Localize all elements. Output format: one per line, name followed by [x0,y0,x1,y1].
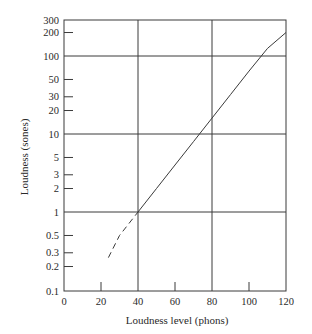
y-tick-label: 3 [54,169,59,180]
dashed-extrapolated-line [108,212,138,258]
y-tick-labels: 0.10.20.30.5123510203050100200300 [43,15,59,297]
y-tick-label: 1 [54,207,59,218]
y-tick-label: 20 [49,105,60,116]
y-tick-label: 2 [54,183,59,194]
loudness-chart: 0.10.20.30.5123510203050100200300 020406… [0,0,312,334]
x-tick-label: 60 [170,296,181,307]
y-tick-label: 10 [49,129,60,140]
y-tick-label: 100 [43,51,59,62]
y-tick-label: 50 [49,74,60,85]
gridlines [64,20,286,291]
plot-frame [64,20,286,291]
x-axis-label: Loudness level (phons) [126,314,229,327]
y-tick-label: 300 [43,15,59,26]
y-tick-label: 0.5 [46,230,59,241]
x-tick-label: 20 [96,296,107,307]
x-tick-label: 100 [241,296,257,307]
y-tick-label: 0.3 [46,247,59,258]
x-tick-label: 120 [278,296,294,307]
y-axis-label: Loudness (sones) [18,118,31,195]
y-tick-label: 200 [43,27,59,38]
y-tick-label: 5 [54,152,59,163]
data-series [108,33,286,258]
y-tick-label: 0.2 [46,261,59,272]
x-tick-label: 0 [61,296,66,307]
axis-ticks [64,33,249,291]
x-tick-label: 40 [133,296,144,307]
y-tick-label: 0.1 [46,286,59,297]
y-tick-label: 30 [49,91,60,102]
x-tick-label: 80 [207,296,218,307]
x-tick-labels: 020406080100120 [61,296,294,307]
